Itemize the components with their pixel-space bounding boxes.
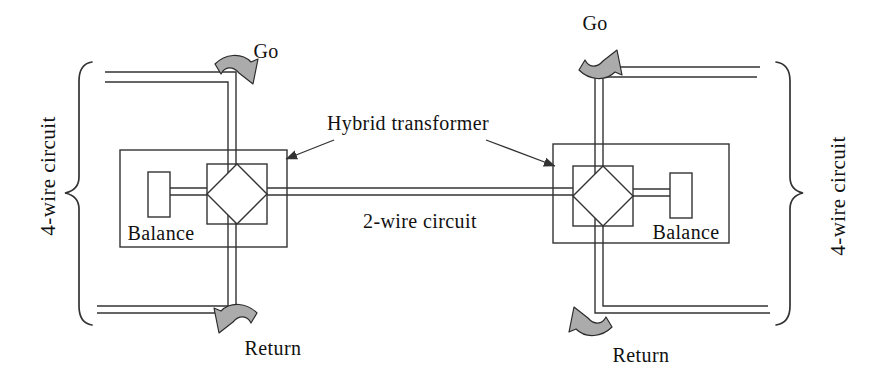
left-transformer-diamond xyxy=(207,164,267,224)
left-go-wire-outer xyxy=(105,72,236,165)
return-label-left: Return xyxy=(245,337,302,360)
hybrid-pointer-left xyxy=(286,140,334,159)
go-label-left: Go xyxy=(253,40,278,63)
right-return-curved-arrow-icon xyxy=(569,307,612,336)
four-wire-circuit-label-right: 4-wire circuit xyxy=(826,136,851,255)
left-go-wire-inner xyxy=(105,82,228,173)
right-go-wire-inner xyxy=(603,77,757,166)
wire-layer xyxy=(97,67,770,313)
two-wire-circuit-label: 2-wire circuit xyxy=(363,210,477,233)
balance-label-left: Balance xyxy=(127,222,194,245)
go-label-right: Go xyxy=(582,12,607,35)
left-balance-rect xyxy=(148,172,170,217)
right-transformer-square xyxy=(573,166,633,226)
diagram-canvas xyxy=(0,0,879,387)
four-wire-circuit-label-left: 4-wire circuit xyxy=(36,116,61,235)
direction-arrows xyxy=(214,50,622,336)
hybrid-transformer-diagram: Go Go Return Return Balance Balance Hybr… xyxy=(0,0,879,387)
right-brace xyxy=(776,62,803,325)
right-transformer-diamond xyxy=(573,166,633,226)
left-return-curved-arrow-icon xyxy=(214,304,257,333)
direction-arrow-layer xyxy=(214,50,622,336)
right-balance-rect xyxy=(670,173,692,218)
right-go-wire-outer xyxy=(595,67,760,174)
left-brace xyxy=(65,62,92,325)
right-go-curved-arrow-icon xyxy=(579,50,622,79)
balance-label-right: Balance xyxy=(652,221,719,244)
hybrid-pointer-right xyxy=(486,140,555,166)
left-transformer-square xyxy=(207,164,267,224)
return-label-right: Return xyxy=(613,344,670,367)
pointer-layer xyxy=(286,140,555,166)
hybrid-transformer-label: Hybrid transformer xyxy=(327,112,489,135)
